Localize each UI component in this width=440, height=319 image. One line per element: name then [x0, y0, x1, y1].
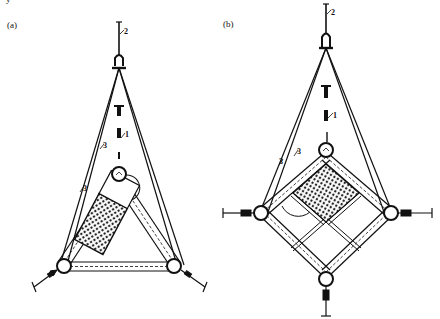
panel-a-diagram [32, 22, 207, 292]
node-left [254, 206, 268, 220]
anchor-pin-left [223, 208, 254, 218]
diagram-canvas: 2 1 3 3 [0, 0, 440, 319]
callout-2: 2 [124, 27, 128, 36]
anchor-pin-right [398, 208, 432, 218]
node-bottom-left [57, 259, 71, 273]
anchor-pin-right [181, 270, 207, 292]
shackle-icon [322, 34, 330, 48]
node-top [112, 167, 126, 181]
node-bottom-right [167, 259, 181, 273]
callout-3: 3 [297, 147, 301, 156]
callout-3b: 3 [279, 157, 283, 166]
node-bottom [319, 272, 333, 286]
panel-b-diagram [223, 4, 432, 316]
node-top [319, 143, 333, 157]
shackle-icon [115, 55, 123, 66]
anchor-pin-left [32, 270, 57, 292]
node-right [384, 206, 398, 220]
mesh-net-panel [293, 164, 359, 222]
callout-1: 1 [333, 111, 337, 120]
callout-2: 2 [331, 8, 335, 17]
callout-1: 1 [125, 130, 129, 139]
anchor-pin-bottom [321, 286, 331, 316]
callout-3b: 3 [83, 184, 87, 193]
callout-3: 3 [103, 141, 107, 150]
